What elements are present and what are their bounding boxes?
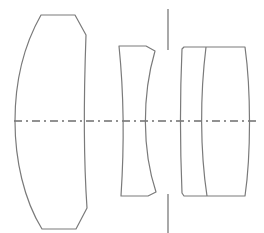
lens-diagram [0,0,264,233]
lens-element-1 [15,15,87,229]
